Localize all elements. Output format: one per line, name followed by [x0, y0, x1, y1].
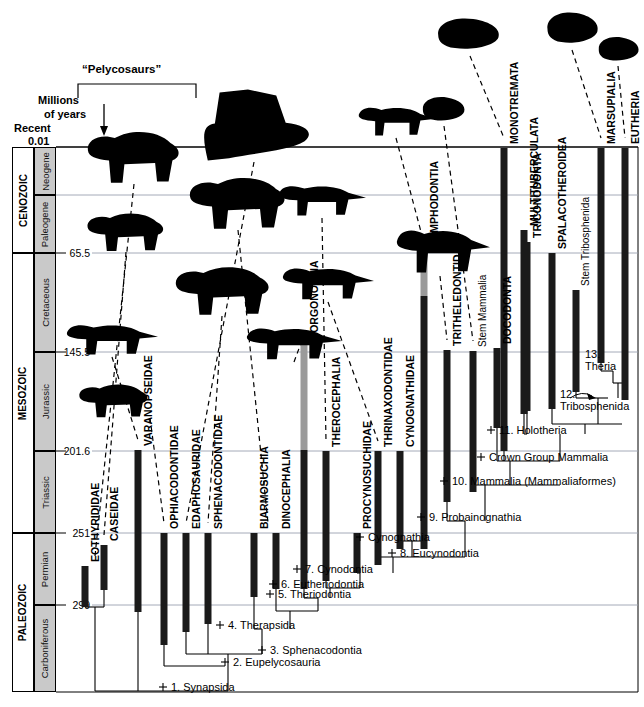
- silhouette-monotreme: [438, 18, 499, 48]
- taxon-label-varanopseidae: VARANOPSEIDAE: [143, 355, 154, 446]
- taxon-label-procynosuchidae: PROCYNOSUCHIDAE: [362, 421, 373, 529]
- silhouette-therocephalian: [279, 186, 366, 215]
- taxon-label-dinocephalia: DINOCEPHALIA: [281, 449, 292, 529]
- node-label-5-theriodontia: 5. Theriodontia: [278, 589, 351, 600]
- recent-label: Recent: [14, 123, 51, 134]
- node-label-tribosphenida: Tribosphenida: [560, 401, 629, 412]
- taxon-label-tritheledontidae: TRITHELEDONTIDAE: [452, 240, 463, 346]
- taxon-label-gomphodontia: GOMPHODONTIA: [429, 161, 440, 249]
- taxon-label-ophiacodontidae: OPHIACODONTIDAE: [169, 425, 180, 529]
- silhouette-dinocephalian: [176, 267, 269, 314]
- node-label-11-holotheria: 11. Holotheria: [499, 425, 567, 436]
- node-label-crown-group-mammalia: Crown Group Mammalia: [489, 452, 608, 463]
- silhouette-multituberculate: [547, 12, 597, 42]
- taxon-label-multituberculata: MULTITUBERCULATA: [529, 117, 540, 226]
- silhouette-gorgonopsian: [247, 329, 342, 360]
- taxon-label-cynognathidae: CYNOGNATHIDAE: [405, 355, 416, 447]
- node-label-7-cynodontia: 7. Cynodontia: [305, 564, 373, 575]
- animal-silhouettes: [0, 0, 644, 707]
- node-label-8-eucynodontia: 8. Eucynodontia: [400, 548, 479, 559]
- recent-value: 0.01: [28, 136, 49, 147]
- silhouette-varanopseid: [67, 325, 158, 354]
- node-label-cynognathia: Cynognathia: [368, 532, 430, 543]
- taxon-label-stem-mammalia: Stem Mammalia: [478, 275, 488, 347]
- silhouette-trithelodont: [397, 230, 490, 272]
- taxon-label-gorgonopsia: GORGONOPSIA: [309, 260, 320, 341]
- taxon-label-eutheria: EUTHERIA: [630, 90, 641, 144]
- silhouette-caseid: [87, 213, 163, 251]
- taxon-label-docodonta: DOCODONTA: [502, 276, 513, 344]
- node-label-13: 13.: [585, 349, 600, 360]
- node-label-10-mammalia-mammaliaformes: 10. Mammalia (Mammaliaformes): [452, 476, 616, 487]
- taxon-label-edaphosauridae: EDAPHOSAURIDAE: [191, 429, 202, 529]
- taxon-label-spalacotheroidea: SPALACOTHEROIDEA: [557, 137, 568, 249]
- taxon-label-marsupialia: MARSUPIALIA: [606, 71, 617, 144]
- node-label-12: 12.: [560, 389, 575, 400]
- node-label-4-therapsida: 4. Therapsida: [228, 620, 295, 631]
- silhouette-eothyridid: [79, 384, 147, 417]
- taxon-label-sphenacodontidae: SPHENACODONTIDAE: [213, 415, 224, 529]
- node-label-2-eupelycosauria: 2. Eupelycosauria: [233, 657, 320, 668]
- silhouette-anomodont: [190, 178, 285, 229]
- silhouette-cynodont: [283, 269, 374, 300]
- taxon-label-caseidae: CASEIDAE: [109, 487, 120, 541]
- axis-caption-line2: of years: [44, 109, 86, 120]
- node-label-6-eutheriodontia: 6. Eutheriodontia: [281, 579, 364, 590]
- taxon-label-monotremata: MONOTREMATA: [509, 62, 520, 144]
- silhouette-docodont: [423, 97, 465, 120]
- node-label-3-sphenacodontia: 3. Sphenacodontia: [270, 645, 362, 656]
- axis-caption-line1: Millions: [38, 95, 79, 106]
- node-label-1-synapsida: 1. Synapsida: [171, 682, 235, 693]
- taxon-label-thrinaxodontidae: THRINAXODONTIDAE: [383, 337, 394, 447]
- node-label-9-probainognathia: 9. Probainognathia: [429, 512, 521, 523]
- taxon-label-biarmosuchia: BIARMOSUCHIA: [259, 446, 270, 529]
- taxon-label-stem-tribosphenida: Stem Tribosphenida: [581, 197, 591, 286]
- pelycosaurs-bracket-label: “Pelycosaurs”: [82, 64, 161, 76]
- taxon-label-eothyrididae: EOTHYRIDIDAE: [90, 483, 101, 562]
- silhouette-edaphosaurid-sail: [204, 89, 309, 160]
- node-label-theria: Theria: [585, 361, 616, 372]
- silhouette-eutherian-shrew: [599, 37, 639, 60]
- taxon-label-therocephalia: THEROCEPHALIA: [331, 357, 342, 447]
- silhouette-ophiacodont: [88, 132, 179, 183]
